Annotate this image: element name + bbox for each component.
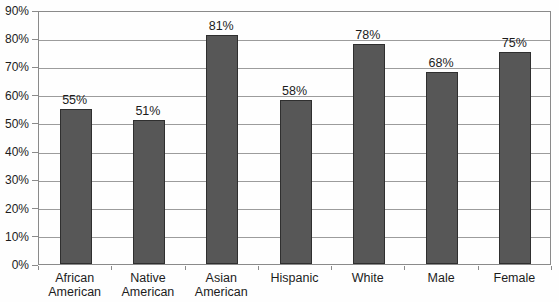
bar-hispanic bbox=[280, 100, 312, 264]
y-axis-tick bbox=[32, 39, 38, 40]
x-axis-tick bbox=[258, 266, 259, 270]
y-axis-tick-label: 80% bbox=[0, 33, 29, 45]
y-axis-tick-label: 50% bbox=[0, 118, 29, 130]
bar-asian-american bbox=[206, 35, 238, 264]
bar-native-american bbox=[133, 120, 165, 264]
bar-value-label: 51% bbox=[118, 105, 178, 118]
x-axis-category-label: White bbox=[334, 271, 401, 285]
y-axis-tick-label: 70% bbox=[0, 61, 29, 73]
x-axis-category-label: Male bbox=[407, 271, 474, 285]
y-axis-tick bbox=[32, 95, 38, 96]
plot-area bbox=[38, 11, 551, 265]
bar-value-label: 68% bbox=[411, 57, 471, 70]
y-axis-tick-label: 10% bbox=[0, 231, 29, 243]
bar-female bbox=[499, 52, 531, 264]
bar-african-american bbox=[60, 109, 92, 264]
bar-value-label: 58% bbox=[265, 85, 325, 98]
y-axis-tick bbox=[32, 123, 38, 124]
y-axis-tick bbox=[32, 208, 38, 209]
x-axis-tick bbox=[111, 266, 112, 270]
y-axis-tick-label: 60% bbox=[0, 90, 29, 102]
bar-value-label: 75% bbox=[484, 37, 544, 50]
gridline bbox=[39, 68, 550, 69]
y-axis-tick bbox=[32, 67, 38, 68]
x-axis-category-label: Female bbox=[481, 271, 548, 285]
y-axis-tick bbox=[32, 11, 38, 12]
bar-white bbox=[353, 44, 385, 264]
x-axis-tick bbox=[331, 266, 332, 270]
y-axis-tick-label: 30% bbox=[0, 174, 29, 186]
x-axis-tick bbox=[404, 266, 405, 270]
gridline bbox=[39, 40, 550, 41]
x-axis-tick bbox=[38, 266, 39, 270]
x-axis-category-label: Hispanic bbox=[261, 271, 328, 285]
x-axis-tick bbox=[551, 266, 552, 270]
bar-chart: 0%10%20%30%40%50%60%70%80%90% African Am… bbox=[0, 0, 559, 302]
y-axis-tick-label: 0% bbox=[0, 259, 29, 271]
bar-value-label: 55% bbox=[45, 94, 105, 107]
y-axis-tick bbox=[32, 152, 38, 153]
y-axis-tick bbox=[32, 236, 38, 237]
x-axis-tick bbox=[478, 266, 479, 270]
y-axis-tick bbox=[32, 180, 38, 181]
bar-value-label: 78% bbox=[338, 29, 398, 42]
bar-male bbox=[426, 72, 458, 264]
x-axis-tick bbox=[185, 266, 186, 270]
x-axis-category-label: African American bbox=[41, 271, 108, 299]
y-axis-tick-label: 40% bbox=[0, 146, 29, 158]
bar-value-label: 81% bbox=[191, 20, 251, 33]
x-axis-category-label: Asian American bbox=[188, 271, 255, 299]
y-axis-tick-label: 20% bbox=[0, 203, 29, 215]
y-axis-tick-label: 90% bbox=[0, 5, 29, 17]
x-axis-category-label: Native American bbox=[114, 271, 181, 299]
